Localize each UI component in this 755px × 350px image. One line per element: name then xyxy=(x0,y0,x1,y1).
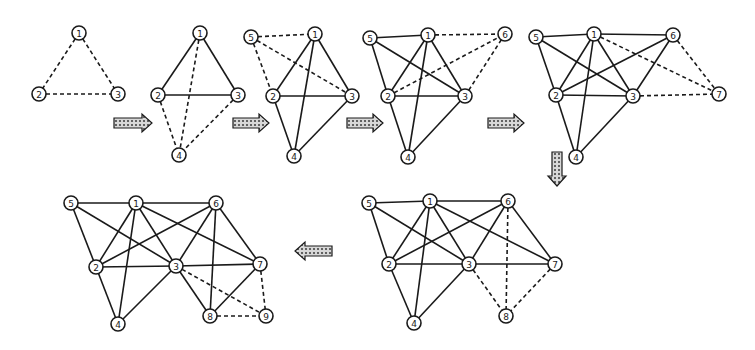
edge-5-3 xyxy=(71,203,176,266)
node-8: 8 xyxy=(203,309,217,323)
node-4: 4 xyxy=(401,150,415,164)
node-label: 6 xyxy=(502,30,508,40)
edge-5-1 xyxy=(370,35,428,38)
node-3: 3 xyxy=(458,89,472,103)
node-3: 3 xyxy=(626,89,640,103)
node-label: 9 xyxy=(263,312,269,322)
edge-5-1-new xyxy=(251,34,315,37)
arrow-step2-to-step3-icon xyxy=(233,114,269,132)
edge-1-2 xyxy=(273,34,315,96)
edge-6-7 xyxy=(216,203,260,264)
node-label: 2 xyxy=(385,92,391,102)
node-label: 7 xyxy=(716,90,722,100)
arrow-step6-to-step7-icon xyxy=(295,242,332,260)
arrow-step3-to-step4-icon xyxy=(347,114,383,132)
node-1: 1 xyxy=(587,27,601,41)
node-5: 5 xyxy=(363,31,377,45)
node-label: 8 xyxy=(503,312,509,322)
edge-2-4-new xyxy=(158,95,179,155)
node-3: 3 xyxy=(111,87,125,101)
node-label: 3 xyxy=(235,91,241,101)
node-label: 1 xyxy=(76,29,82,39)
edge-6-7-new xyxy=(673,35,719,94)
node-3: 3 xyxy=(345,89,359,103)
edge-3-6 xyxy=(176,203,216,266)
node-4: 4 xyxy=(172,148,186,162)
node-label: 5 xyxy=(533,33,539,43)
edge-5-3 xyxy=(536,37,633,96)
node-9: 9 xyxy=(259,309,273,323)
node-6: 6 xyxy=(498,27,512,41)
node-2: 2 xyxy=(549,88,563,102)
node-2: 2 xyxy=(382,257,396,271)
node-label: 4 xyxy=(405,153,411,163)
edge-2-6-new xyxy=(388,34,505,96)
node-label: 6 xyxy=(670,31,676,41)
edge-1-2 xyxy=(389,201,430,264)
edge-7-9-new xyxy=(260,264,266,316)
node-label: 1 xyxy=(197,29,203,39)
edge-1-6 xyxy=(594,34,673,35)
edge-5-3 xyxy=(369,203,469,264)
edge-2-4 xyxy=(389,264,414,323)
node-label: 1 xyxy=(427,197,433,207)
node-label: 2 xyxy=(270,92,276,102)
node-5: 5 xyxy=(64,196,78,210)
edge-1-2-new xyxy=(39,33,79,94)
edge-3-4 xyxy=(414,264,469,323)
node-label: 7 xyxy=(257,260,263,270)
node-label: 6 xyxy=(213,199,219,209)
node-label: 1 xyxy=(133,199,139,209)
edge-3-6 xyxy=(633,35,673,96)
edge-5-3-new xyxy=(251,37,352,96)
node-label: 1 xyxy=(425,31,431,41)
node-1: 1 xyxy=(72,26,86,40)
node-1: 1 xyxy=(423,194,437,208)
edge-2-3 xyxy=(96,266,176,267)
node-label: 2 xyxy=(93,263,99,273)
edge-5-1 xyxy=(369,201,430,203)
node-label: 6 xyxy=(505,197,511,207)
node-4: 4 xyxy=(407,316,421,330)
node-label: 5 xyxy=(367,34,373,44)
node-3: 3 xyxy=(462,257,476,271)
edge-1-3 xyxy=(200,33,238,95)
node-label: 7 xyxy=(552,260,558,270)
graph-panel-step-1: 123 xyxy=(32,26,125,101)
node-6: 6 xyxy=(209,196,223,210)
edge-2-3 xyxy=(556,95,633,96)
edge-1-4 xyxy=(414,201,430,323)
edge-1-2 xyxy=(96,203,136,267)
edge-1-2 xyxy=(158,33,200,95)
graph-construction-diagram: 1231234512345162345162347516237485162374… xyxy=(0,0,755,350)
graph-panel-step-3: 51234 xyxy=(244,27,359,163)
edge-1-4 xyxy=(118,203,136,324)
edge-2-4 xyxy=(96,267,118,324)
node-label: 8 xyxy=(207,312,213,322)
node-label: 5 xyxy=(248,33,254,43)
arrow-step4-to-step5-icon xyxy=(488,114,524,132)
edge-3-8 xyxy=(176,266,210,316)
node-7: 7 xyxy=(548,257,562,271)
node-4: 4 xyxy=(569,150,583,164)
node-label: 4 xyxy=(176,151,182,161)
node-label: 3 xyxy=(349,92,355,102)
arrows-layer xyxy=(114,114,566,260)
graph-panel-step-4: 516234 xyxy=(363,27,512,164)
node-label: 4 xyxy=(115,320,121,330)
edge-3-8-new xyxy=(469,264,506,316)
node-label: 4 xyxy=(411,319,417,329)
node-5: 5 xyxy=(362,196,376,210)
node-2: 2 xyxy=(266,89,280,103)
graph-panel-step-2: 1234 xyxy=(151,26,245,162)
arrow-step1-to-step2-icon xyxy=(114,114,152,132)
edge-5-3 xyxy=(370,38,465,96)
node-1: 1 xyxy=(308,27,322,41)
edge-5-2 xyxy=(71,203,96,267)
edge-6-7 xyxy=(508,201,555,264)
edge-3-9-new xyxy=(176,266,266,316)
edge-1-3-new xyxy=(79,33,118,94)
edge-2-4 xyxy=(388,96,408,157)
node-label: 5 xyxy=(366,199,372,209)
node-8: 8 xyxy=(499,309,513,323)
